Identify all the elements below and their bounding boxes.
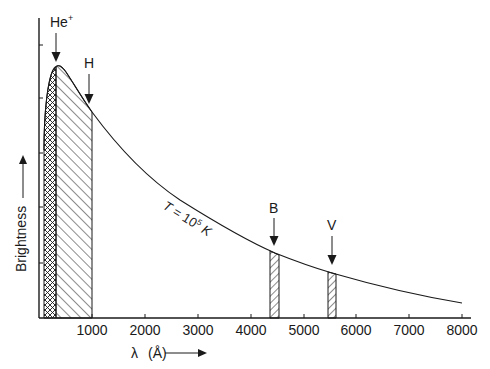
shaded-regions (44, 66, 336, 318)
v-band-region (328, 272, 336, 318)
x-tick-label: 3000 (182, 322, 213, 338)
x-tick-label: 1000 (76, 322, 107, 338)
x-tick-label: 8000 (446, 322, 477, 338)
x-arrowhead-icon (198, 349, 207, 357)
x-tick-labels: 1000 2000 3000 4000 5000 6000 7000 8000 (76, 322, 477, 338)
x-axis-label: λ (Å) (131, 345, 207, 361)
blackbody-curve (44, 66, 462, 303)
x-tick-label: 7000 (393, 322, 424, 338)
x-tick-label: 5000 (288, 322, 319, 338)
y-arrowhead-icon (19, 155, 27, 164)
blackbody-chart: 1000 2000 3000 4000 5000 6000 7000 8000 … (0, 0, 490, 369)
y-label-text: Brightness (13, 206, 29, 272)
x-label-unit: (Å) (148, 345, 167, 361)
v-label: V (327, 217, 337, 233)
x-tick-label: 6000 (340, 322, 371, 338)
y-axis-label: Brightness (13, 155, 29, 272)
axes (39, 18, 471, 318)
temperature-label: T = 105 K (160, 198, 215, 240)
x-tick-label: 2000 (129, 322, 160, 338)
b-band-region (270, 251, 279, 318)
h-label: H (84, 55, 94, 71)
he-plus-label: He+ (50, 13, 73, 30)
x-label-lambda: λ (131, 345, 138, 361)
x-tick-label: 4000 (235, 322, 266, 338)
annotations: He+ H B V T = 105 K (50, 13, 337, 265)
b-label: B (269, 200, 278, 216)
